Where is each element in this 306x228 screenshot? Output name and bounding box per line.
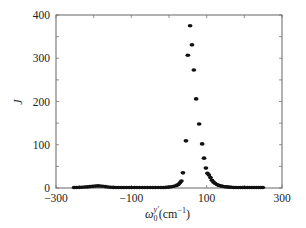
y-tick-labels: 0100200300400 (33, 9, 51, 194)
data-point (202, 156, 207, 160)
y-tick-label: 100 (33, 139, 51, 151)
x-label-unit: (cm (159, 207, 178, 221)
x-label-unit-close: ) (186, 207, 190, 221)
x-tick-label: 300 (273, 192, 291, 204)
data-points (72, 24, 266, 189)
data-point (194, 97, 199, 101)
plot-area (56, 15, 282, 189)
axes-frame (56, 15, 282, 188)
data-point (190, 43, 195, 47)
x-label-base: ω (145, 207, 153, 221)
data-point (185, 53, 190, 57)
data-point (204, 166, 209, 170)
x-tick-label: 100 (198, 192, 216, 204)
data-point (188, 24, 193, 28)
data-point (184, 139, 189, 143)
y-tick-label: 0 (44, 182, 50, 194)
x-tick-label: −100 (119, 192, 143, 204)
y-tick-label: 200 (33, 96, 51, 108)
x-tick-labels: −300−100100300 (44, 192, 291, 204)
data-point (179, 179, 184, 183)
y-tick-label: 400 (33, 9, 51, 21)
data-point (181, 171, 186, 175)
data-point (197, 122, 202, 126)
data-point (260, 186, 265, 190)
y-axis-label: J (11, 99, 25, 105)
axis-ticks (56, 15, 282, 188)
x-axis-label: ω0y′(cm−1) (145, 205, 190, 223)
data-point (191, 68, 196, 72)
data-point (200, 142, 205, 146)
x-label-sub: 0 (153, 214, 157, 223)
y-tick-label: 300 (33, 52, 51, 64)
x-label-unit-sup: −1 (177, 206, 186, 215)
scatter-chart: −300−100100300 0100200300400 J ω0y′(cm−1… (0, 0, 306, 228)
